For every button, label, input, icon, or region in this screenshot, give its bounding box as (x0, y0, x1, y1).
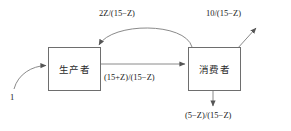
node-consumer: 消费者 (188, 47, 241, 91)
edge-label-output: 10/(15−Z) (206, 8, 241, 18)
node-consumer-label: 消费者 (199, 62, 231, 76)
edge-output-arrow (237, 28, 256, 49)
node-producer: 生产者 (48, 47, 101, 91)
edge-label-flow: (15+Z)/(15−Z) (104, 72, 155, 82)
edge-input-arrow (14, 66, 46, 90)
edge-recycle-arc (99, 28, 192, 47)
diagram-connectors (0, 0, 291, 131)
node-producer-label: 生产者 (59, 62, 91, 76)
flow-diagram-canvas: 生产者 消费者 2Z/(15−Z) 10/(15−Z) (15+Z)/(15−Z… (0, 0, 291, 131)
edge-label-input: 1 (10, 92, 14, 102)
edge-label-loss: (5−Z)/(15−Z) (185, 110, 231, 120)
edge-label-recycle: 2Z/(15−Z) (99, 8, 135, 18)
